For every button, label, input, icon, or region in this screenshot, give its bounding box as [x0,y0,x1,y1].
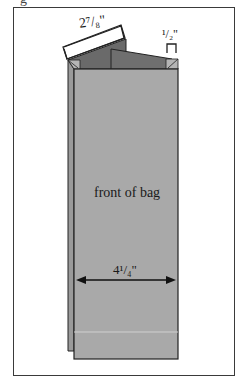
bag-front-panel [74,69,178,359]
front-of-bag-label: front of bag [94,185,160,201]
gusset-width-label: ¹/₂" [162,27,178,42]
bag-width-label: 4¹/₄" [113,262,137,278]
gusset-dimension-bracket [167,44,176,53]
bag-back-panel [68,60,74,351]
